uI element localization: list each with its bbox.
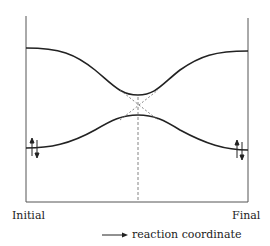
x-axis-title: reaction coordinate bbox=[102, 228, 241, 241]
lower-state-curve bbox=[26, 115, 248, 150]
x-axis-title-text: reaction coordinate bbox=[132, 228, 241, 241]
right-arrow-icon bbox=[102, 231, 128, 239]
upper-state-curve bbox=[26, 48, 248, 95]
initial-label: Initial bbox=[12, 209, 45, 222]
final-label: Final bbox=[232, 209, 260, 222]
